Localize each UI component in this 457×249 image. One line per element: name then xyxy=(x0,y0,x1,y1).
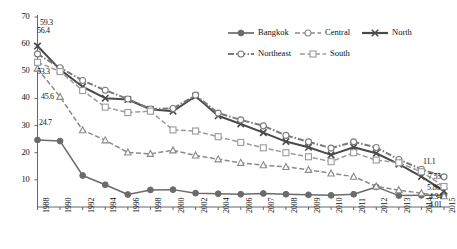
y-axis-tick-label: 50 xyxy=(8,65,30,75)
data-point-marker xyxy=(125,110,131,116)
data-point-marker xyxy=(260,145,266,151)
series-central xyxy=(34,65,447,199)
chart-axes xyxy=(38,15,450,207)
data-point-marker xyxy=(147,108,153,114)
x-axis-tick-label: 1990 xyxy=(64,198,73,213)
data-point-marker xyxy=(125,192,131,198)
data-point-marker xyxy=(79,127,85,133)
data-value-label: 4.01 xyxy=(429,200,442,209)
y-axis-tick-label: 30 xyxy=(8,120,30,130)
data-point-marker xyxy=(396,193,402,199)
x-axis-tick-label: 2010 xyxy=(335,198,344,213)
line-chart: 1020304050607019881990199219941996199820… xyxy=(0,0,457,249)
data-value-label: 56.4 xyxy=(37,26,50,35)
x-axis-tick-label: 1996 xyxy=(132,198,141,213)
y-axis-tick-label: 40 xyxy=(8,92,30,102)
x-axis-tick-label: 2004 xyxy=(222,198,231,213)
data-point-marker xyxy=(441,174,447,180)
data-point-marker xyxy=(441,184,447,190)
y-axis-tick-label: 60 xyxy=(8,38,30,48)
data-point-marker xyxy=(192,152,198,158)
data-point-marker xyxy=(328,192,334,198)
data-point-marker xyxy=(283,150,289,156)
data-point-marker xyxy=(351,139,357,145)
x-axis-tick-label: 2006 xyxy=(245,198,254,213)
x-axis-tick-label: 2015 xyxy=(448,198,457,213)
data-point-marker xyxy=(238,191,244,197)
series-bangkok xyxy=(35,137,447,198)
data-point-marker xyxy=(193,92,199,98)
y-axis-tick-label: 20 xyxy=(8,147,30,157)
y-axis-tick-label: 70 xyxy=(8,11,30,21)
data-point-marker xyxy=(373,145,379,151)
data-point-marker xyxy=(170,147,176,153)
data-point-marker xyxy=(238,139,244,145)
x-axis-tick-label: 2000 xyxy=(177,198,186,213)
data-point-marker xyxy=(193,190,199,196)
data-point-marker xyxy=(351,150,357,156)
data-value-label: 45.6 xyxy=(41,92,54,101)
x-axis-tick-label: 1988 xyxy=(42,198,51,213)
data-point-marker xyxy=(306,139,312,145)
x-axis-tick-label: 2012 xyxy=(380,198,389,213)
data-point-marker xyxy=(396,160,402,166)
data-point-marker xyxy=(35,137,41,143)
x-axis-tick-label: 1998 xyxy=(154,198,163,213)
data-point-marker xyxy=(260,123,266,129)
y-axis-tick-label: 10 xyxy=(8,174,30,184)
x-axis-tick-label: 2013 xyxy=(403,198,412,213)
data-value-label: 5.86 xyxy=(427,183,440,192)
legend-label-northeast: Northeast xyxy=(258,48,291,58)
x-axis-tick-label: 2008 xyxy=(290,198,299,213)
x-axis-tick-label: 2011 xyxy=(358,198,367,213)
x-axis-tick-label: 2002 xyxy=(200,198,209,213)
data-value-label: 7.55 xyxy=(428,172,441,181)
data-value-label: 53.3 xyxy=(37,67,50,76)
data-point-marker xyxy=(102,182,108,188)
data-point-marker xyxy=(351,191,357,197)
data-point-marker xyxy=(148,187,154,193)
legend-label-bangkok: Bangkok xyxy=(258,27,289,37)
data-point-marker xyxy=(328,159,334,165)
data-point-marker xyxy=(215,191,221,197)
data-point-marker xyxy=(35,51,41,57)
data-value-label: 11.1 xyxy=(423,157,436,166)
legend-label-south: South xyxy=(330,48,350,58)
data-point-marker xyxy=(283,132,289,138)
data-point-marker xyxy=(418,169,424,175)
data-point-marker xyxy=(328,145,334,151)
x-axis-tick-label: 1992 xyxy=(87,198,96,213)
data-point-marker xyxy=(305,30,311,36)
data-point-marker xyxy=(125,96,131,102)
data-point-marker xyxy=(57,138,63,144)
data-point-marker xyxy=(310,51,316,57)
data-point-marker xyxy=(80,78,86,84)
data-point-marker xyxy=(260,191,266,197)
legend-label-central: Central xyxy=(325,27,350,37)
data-point-marker xyxy=(80,88,86,94)
data-point-marker xyxy=(283,191,289,197)
data-point-marker xyxy=(238,51,244,57)
x-axis-tick-label: 2009 xyxy=(313,198,322,213)
data-point-marker xyxy=(102,104,108,110)
data-point-marker xyxy=(238,30,244,36)
x-axis-tick-label: 2007 xyxy=(267,198,276,213)
data-value-label: 24.7 xyxy=(39,118,52,127)
data-point-marker xyxy=(57,69,63,75)
chart-legend xyxy=(228,30,388,57)
data-point-marker xyxy=(35,59,41,65)
data-point-marker xyxy=(238,117,244,123)
data-point-marker xyxy=(215,110,221,116)
data-point-marker xyxy=(80,173,86,179)
data-point-marker xyxy=(170,127,176,133)
data-point-marker xyxy=(170,187,176,193)
legend-label-north: North xyxy=(392,27,412,37)
data-point-marker xyxy=(373,157,379,163)
data-point-marker xyxy=(170,105,176,111)
data-point-marker xyxy=(193,128,199,134)
data-point-marker xyxy=(306,192,312,198)
data-point-marker xyxy=(215,134,221,140)
x-axis-tick-label: 1994 xyxy=(109,198,118,213)
data-point-marker xyxy=(306,154,312,160)
data-point-marker xyxy=(102,87,108,93)
